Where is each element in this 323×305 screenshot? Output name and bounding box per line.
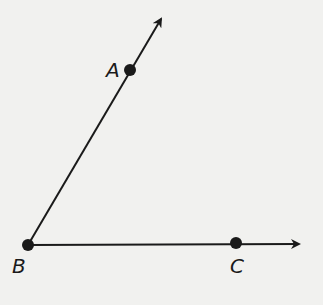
point-b	[22, 239, 34, 251]
label-b: B	[12, 256, 26, 276]
ray-ba	[28, 19, 161, 245]
ray-bc	[28, 244, 299, 245]
angle-diagram	[0, 0, 323, 305]
label-a: A	[106, 60, 120, 80]
point-a	[124, 64, 136, 76]
label-c: C	[230, 256, 244, 276]
point-c	[230, 237, 242, 249]
